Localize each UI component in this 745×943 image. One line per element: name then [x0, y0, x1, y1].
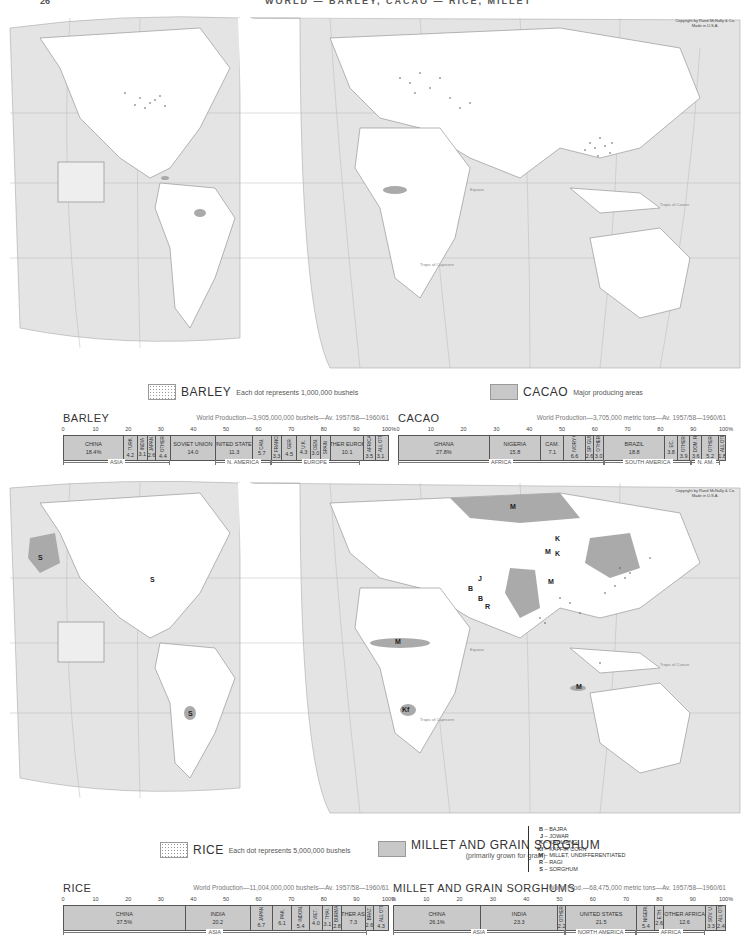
segment-label: UNITED STATES — [580, 911, 623, 918]
axis-tick: 70 — [625, 426, 631, 432]
axis-tick: 60 — [592, 426, 598, 432]
region-bracket: N. AM. — [691, 462, 720, 470]
segment-label: INDIA — [210, 911, 225, 918]
region-letter: M — [545, 548, 551, 555]
segment-label: INDON. — [298, 906, 303, 922]
page-header: 26 WORLD — BARLEY, CACAO — RICE, MILLET — [0, 0, 745, 8]
percent-axis: 0102030405060708090100% — [63, 426, 389, 434]
stacked-bar: GHANA27.8%NIGERIA15.8CAM.7.1IVORY COAST6… — [398, 435, 726, 461]
segment-label: SPAIN — [323, 441, 328, 454]
copyright-note: Copyright by Rand McNally & Co. Made in … — [675, 488, 735, 498]
millet-production-chart: MILLET AND GRAIN SORGHUMSWorld Prod.—68,… — [393, 882, 726, 942]
segment-label: NIGERIA — [643, 906, 648, 922]
segment-value: 5.4 — [297, 922, 305, 930]
axis-tick: 100% — [382, 426, 396, 432]
millet-key-item: B – BAJRA — [533, 826, 625, 833]
copyright-note: Copyright by Rand McNally & Co. Made in … — [675, 18, 735, 28]
bar-segment: NIGERIA5.4 — [637, 906, 655, 930]
bar-segment: CAN.5.7 — [253, 436, 272, 460]
bar-segment: JAPAN2.6 — [148, 436, 156, 460]
segment-label: THAI. — [325, 908, 330, 920]
millet-key-label: JOWAR — [549, 833, 569, 839]
bar-segment: CAM.7.1 — [541, 436, 564, 460]
svg-text:Equator: Equator — [470, 647, 485, 652]
bar-segment: INDIA20.2 — [186, 906, 251, 930]
axis-tick: 10 — [423, 896, 429, 902]
region-letter: M — [510, 503, 516, 510]
region-label: EUROPE — [302, 459, 329, 465]
bar-segment: OTHER ASIA4.4 — [156, 436, 170, 460]
millet-key-code: Kf — [533, 846, 543, 853]
segment-value: 3.0 — [312, 449, 320, 457]
segment-value: 4.4 — [159, 452, 167, 460]
world-map-barley-cacao: Tropic of Cancer Equator Tropic of Capri… — [0, 8, 745, 374]
region-bracket: ASIA — [63, 462, 170, 470]
region-bracket: ASIA — [393, 932, 565, 940]
segment-value: 20.2 — [212, 918, 223, 926]
segment-label: OTHER N. AM. — [708, 436, 713, 452]
region-label: AFRICA — [659, 929, 683, 935]
inset-map — [58, 162, 104, 202]
bar-segment: OTHER N. AM.5.2 — [702, 436, 719, 460]
bar-segment: BURMA2.8 — [333, 906, 342, 930]
segment-label: INDIA — [140, 438, 145, 450]
millet-key-item: R – RAGI — [533, 859, 625, 866]
bar-segment: OTHER S. AM.3.9 — [678, 436, 691, 460]
svg-text:Tropic of Cancer: Tropic of Cancer — [660, 202, 690, 207]
millet-key-code: J — [533, 833, 543, 840]
segment-value: 3.1 — [138, 450, 146, 458]
millet-key-item: J – JOWAR — [533, 833, 625, 840]
bar-segment: INDIA23.3 — [481, 906, 559, 930]
axis-tick: 30 — [158, 896, 164, 902]
page-number: 26 — [40, 0, 50, 6]
stacked-bar: CHINA18.4%TURK.4.2INDIA3.1JAPAN2.6OTHER … — [63, 435, 389, 461]
region-letter: B — [468, 585, 473, 592]
axis-tick: 60 — [256, 426, 262, 432]
axis-tick: 70 — [623, 896, 629, 902]
chart-subtitle: World Prod.—68,475,000 metric tons—Av. 1… — [549, 884, 726, 891]
axis-tick: 50 — [223, 426, 229, 432]
segment-label: U.K. — [301, 440, 306, 449]
bar-segment: ALL OTHERS1.8 — [719, 436, 725, 460]
page-title: WORLD — BARLEY, CACAO — RICE, MILLET — [265, 0, 532, 6]
segment-label: CHINA — [85, 441, 102, 448]
bar-segment: OTHER EUROPE10.1 — [331, 436, 364, 460]
axis-tick: 20 — [125, 426, 131, 432]
bar-segment: GER.4.5 — [282, 436, 297, 460]
cacao-production-chart: CACAOWorld Production—3,705,000 metric t… — [398, 412, 726, 472]
segment-value: 6.6 — [571, 452, 579, 460]
segment-label: ALL OTHERS — [720, 436, 725, 452]
segment-label: NIGERIA — [504, 441, 527, 448]
bar-segment: OTHER3.0 — [594, 436, 604, 460]
region-letter: M — [395, 638, 401, 645]
legend-rice: RICE Each dot represents 5,000,000 bushe… — [160, 842, 350, 858]
segment-value: 3.5 — [366, 452, 374, 460]
segment-value: 3.8 — [667, 448, 675, 456]
axis-tick: 50 — [559, 426, 565, 432]
segment-value: 3.1 — [324, 920, 332, 928]
percent-axis: 0102030405060708090100% — [393, 896, 726, 904]
bar-segment: SOV. U.3.3 — [706, 906, 717, 930]
legend-rice-desc: Each dot represents 5,000,000 bushels — [229, 847, 351, 854]
segment-label: FRANCE — [274, 436, 279, 452]
segment-value: 4.5 — [285, 450, 293, 458]
axis-tick: 30 — [493, 426, 499, 432]
segment-label: CAN. — [259, 439, 264, 450]
segment-label: PAK. — [280, 909, 285, 919]
millet-key-label: SORGHUM — [549, 866, 578, 872]
bar-segment: UNITED STATES11.3 — [216, 436, 253, 460]
region-letter: S — [150, 576, 155, 583]
rice-dot-swatch — [160, 842, 188, 858]
segment-value: 2.6 — [366, 921, 374, 929]
bar-segment: OTHERS2.2 — [558, 906, 565, 930]
bar-segment: IVORY COAST6.6 — [564, 436, 586, 460]
segment-label: BRAZIL — [625, 441, 644, 448]
axis-tick: 100% — [719, 426, 733, 432]
millet-key-label: MILLET, UNDIFFERENTIATED — [549, 852, 625, 858]
segment-value: 27.8% — [436, 448, 452, 456]
segment-label: CAM. — [545, 441, 559, 448]
bar-segment: ALL OTHERS4.3 — [374, 906, 388, 930]
bar-segment: BRAZ.2.6 — [366, 906, 374, 930]
region-bracket: SOUTH AMERICA — [604, 462, 691, 470]
legend-barley-desc: Each dot represents 1,000,000 bushels — [236, 389, 358, 396]
